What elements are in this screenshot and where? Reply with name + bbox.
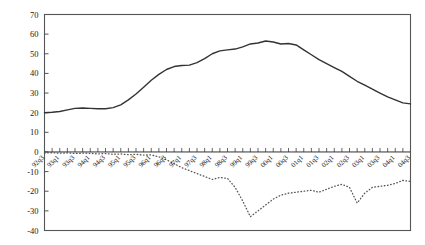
x-tick-label: 93q3 (61, 153, 77, 169)
x-tick-label: 93q1 (46, 153, 62, 169)
data-series-group (45, 41, 411, 217)
x-tick-label: 96q3 (152, 153, 168, 169)
x-tick-label: 02q3 (335, 153, 351, 169)
plot-border (45, 15, 411, 231)
series-line-solid-series (45, 41, 411, 113)
x-tick-label: 03q1 (351, 153, 367, 169)
line-chart: -40-30-20-10010203040506070 92q393q193q3… (0, 0, 425, 245)
x-tick-label: 99q3 (244, 153, 260, 169)
y-tick-label: 50 (30, 49, 39, 59)
x-tick-label: 04q1 (381, 153, 397, 169)
y-tick-label: 60 (30, 29, 39, 39)
chart-container: -40-30-20-10010203040506070 92q393q193q3… (0, 0, 425, 245)
y-tick-label: 40 (30, 68, 39, 78)
x-tick-label: 99q1 (229, 153, 245, 169)
plot-frame (45, 15, 411, 231)
x-tick-label: 97q3 (183, 153, 199, 169)
y-tick-label: -30 (27, 206, 38, 216)
x-tick-label: 98q1 (198, 153, 214, 169)
y-tick-label: 70 (30, 10, 39, 20)
x-tick-label: 97q1 (168, 153, 184, 169)
y-tick-label: -20 (27, 186, 38, 196)
x-tick-label: 01q1 (290, 153, 306, 169)
x-tick-label: 92q3 (30, 153, 46, 169)
x-tick-label: 01q3 (305, 153, 321, 169)
x-tick-label: 94q1 (76, 153, 92, 169)
x-tick-label: 00q1 (259, 153, 275, 169)
x-axis-labels: 92q393q193q394q194q395q195q396q196q397q1… (30, 153, 412, 169)
x-tick-label: 95q1 (107, 153, 123, 169)
y-tick-label: 30 (30, 88, 39, 98)
x-tick-label: 95q3 (122, 153, 138, 169)
x-tick-label: 03q3 (366, 153, 382, 169)
x-tick-label: 02q1 (320, 153, 336, 169)
x-axis-ticks (45, 148, 411, 152)
y-tick-label: 10 (30, 127, 39, 137)
y-tick-label: 20 (30, 108, 39, 118)
y-axis-ticks (45, 15, 49, 231)
x-tick-label: 94q3 (91, 153, 107, 169)
x-tick-label: 00q3 (274, 153, 290, 169)
x-tick-label: 98q3 (213, 153, 229, 169)
x-tick-label: 96q1 (137, 153, 153, 169)
x-tick-label: 04q3 (396, 153, 412, 169)
y-axis-labels: -40-30-20-10010203040506070 (27, 10, 38, 236)
y-tick-label: -40 (27, 226, 38, 236)
